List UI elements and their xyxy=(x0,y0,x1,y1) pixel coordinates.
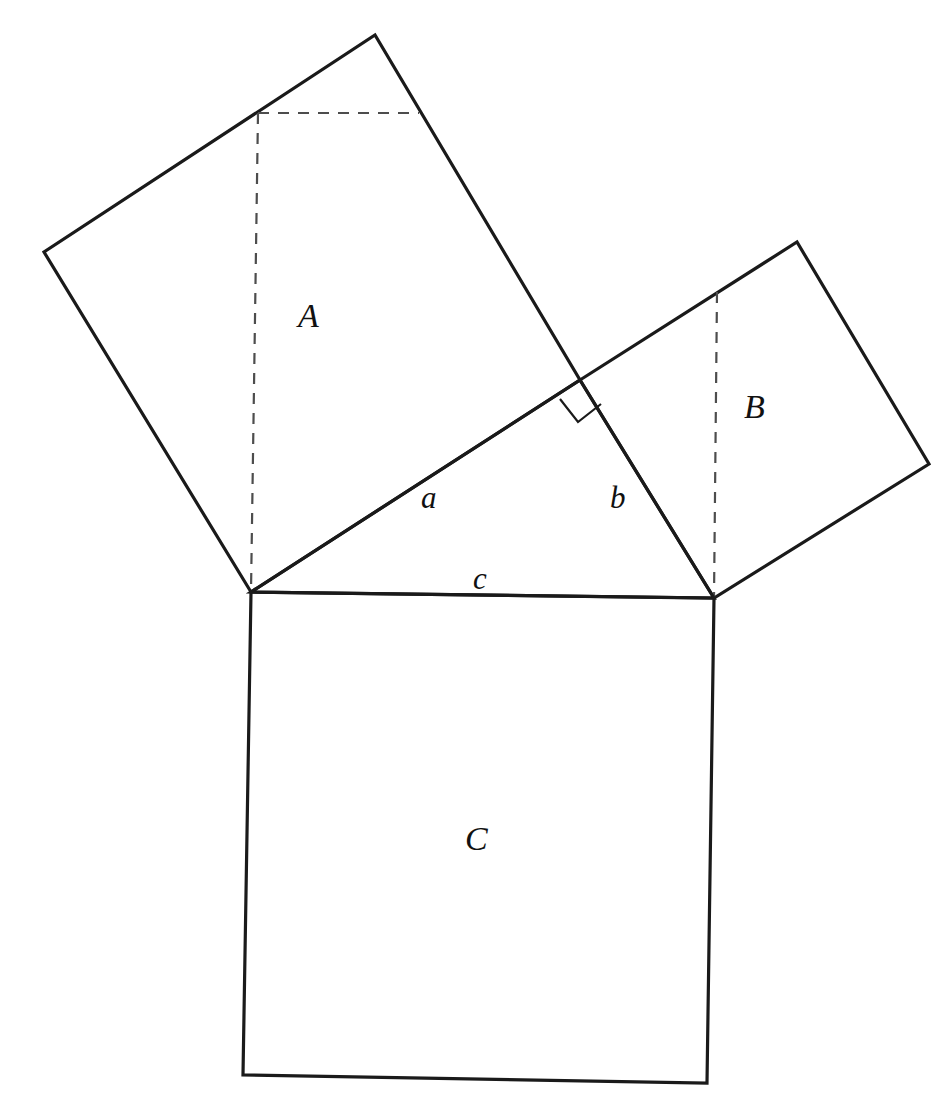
label-square-a: A xyxy=(298,299,319,333)
label-square-b: B xyxy=(744,390,765,424)
geometry-canvas xyxy=(0,0,952,1111)
label-side-b: b xyxy=(610,482,626,513)
label-side-c: c xyxy=(473,563,487,594)
label-square-c: C xyxy=(465,822,488,856)
pythagorean-diagram: A B C a b c xyxy=(0,0,952,1111)
label-side-a: a xyxy=(421,482,437,513)
